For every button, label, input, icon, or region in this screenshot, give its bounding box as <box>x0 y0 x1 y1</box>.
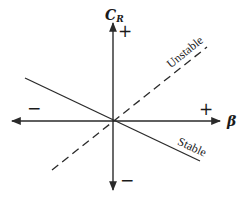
cr-positive-sign: + <box>118 23 132 40</box>
beta-positive-sign: + <box>199 101 213 118</box>
diagram-canvas: CR + − β + − Unstable Stable <box>0 0 247 200</box>
beta-axis-label: β <box>227 114 236 128</box>
unstable-line <box>52 47 207 170</box>
beta-negative-sign: − <box>27 100 41 117</box>
cr-negative-sign: − <box>120 172 134 189</box>
